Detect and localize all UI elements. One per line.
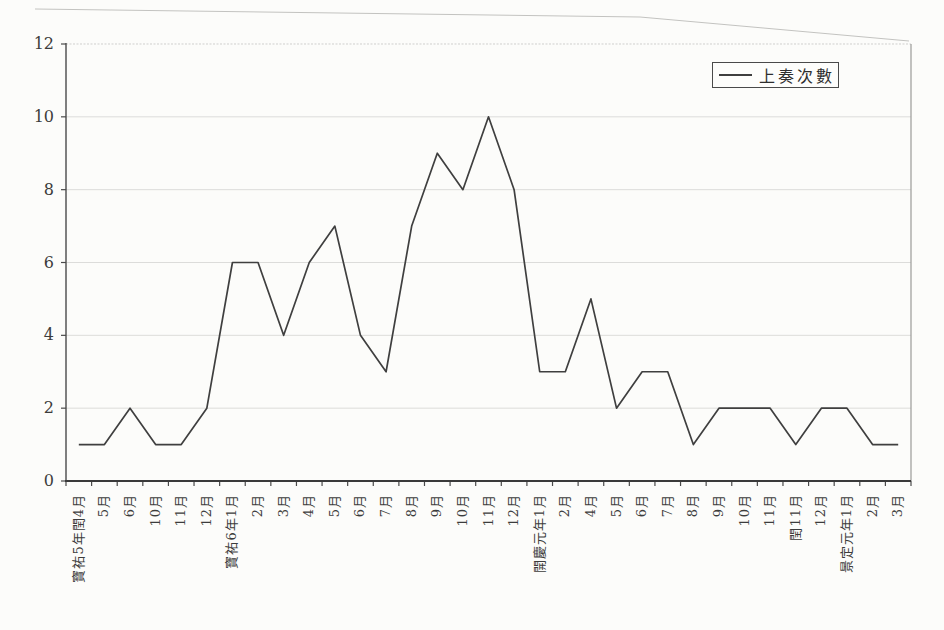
x-tick-label: 7月 [660,494,676,599]
x-tick-label: 2月 [865,494,881,599]
x-tick-label: 3月 [276,494,292,599]
x-tick-label: 12月 [506,494,522,599]
x-tick-label: 3月 [890,494,906,599]
x-tick-label: 2月 [557,494,573,599]
x-tick-label: 2月 [250,494,266,599]
legend: 上奏次數 [712,62,839,88]
x-tick-label: 4月 [301,494,317,599]
x-tick-label: 5月 [609,494,625,599]
y-tick-label: 10 [14,108,54,126]
x-tick-label: 10月 [148,494,164,599]
x-tick-label: 8月 [685,494,701,599]
x-tick-label: 6月 [352,494,368,599]
legend-series-label: 上奏次數 [759,63,835,87]
scan-border-artifact [35,9,909,41]
x-tick-label: 寶祐5年閏4月 [71,494,87,599]
y-tick-label: 8 [14,181,54,199]
x-tick-label: 12月 [813,494,829,599]
x-tick-label: 5月 [96,494,112,599]
x-tick-label: 9月 [429,494,445,599]
x-tick-label: 11月 [481,494,497,599]
x-tick-label: 7月 [378,494,394,599]
x-tick-label: 6月 [122,494,138,599]
y-tick-label: 4 [14,326,54,344]
y-tick-label: 2 [14,399,54,417]
x-tick-label: 景定元年1月 [839,494,855,599]
scanned-line-chart-figure: 024681012 寶祐5年閏4月5月6月10月11月12月寶祐6年1月2月3月… [0,0,944,630]
x-tick-label: 寶祐6年1月 [224,494,240,599]
x-tick-label: 12月 [199,494,215,599]
x-tick-label: 10月 [737,494,753,599]
x-tick-label: 5月 [327,494,343,599]
x-tick-label: 11月 [762,494,778,599]
x-tick-label: 11月 [173,494,189,599]
x-tick-label: 開慶元年1月 [532,494,548,599]
x-tick-label: 6月 [634,494,650,599]
x-tick-label: 4月 [583,494,599,599]
legend-line-marker-icon [719,74,752,76]
x-tick-label: 10月 [455,494,471,599]
x-tick-label: 閏11月 [788,494,804,599]
x-tick-label: 9月 [711,494,727,599]
y-tick-label: 0 [14,472,54,490]
y-tick-label: 12 [14,35,54,53]
x-tick-label: 8月 [404,494,420,599]
series-line [79,117,898,445]
y-tick-label: 6 [14,254,54,272]
